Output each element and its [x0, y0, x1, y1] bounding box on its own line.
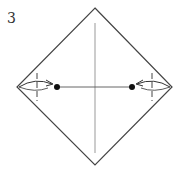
left-fold-arrow-icon [19, 80, 53, 90]
left-reference-dot [54, 84, 60, 90]
right-reference-dot [129, 84, 135, 90]
origami-diagram [0, 0, 180, 174]
right-fold-arrow-icon [136, 80, 170, 90]
